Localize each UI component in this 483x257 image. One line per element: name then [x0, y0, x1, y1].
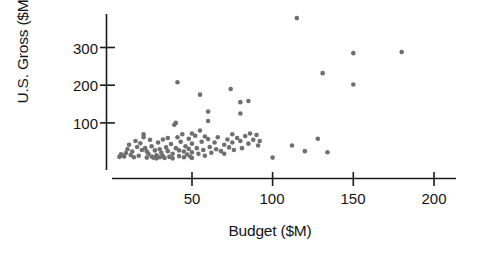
data-point: [198, 92, 203, 97]
data-point: [165, 136, 170, 141]
data-point: [209, 150, 214, 155]
data-point: [206, 137, 211, 142]
data-point-group: [117, 16, 404, 161]
data-point: [228, 87, 233, 92]
data-point: [222, 152, 227, 157]
data-point: [162, 156, 167, 161]
data-point: [207, 145, 212, 150]
data-point: [270, 155, 275, 160]
data-point: [316, 136, 321, 141]
data-point: [169, 142, 174, 147]
data-point: [230, 140, 235, 145]
data-point: [199, 139, 204, 144]
data-point: [132, 155, 137, 160]
data-point: [214, 147, 219, 152]
data-point: [290, 143, 295, 148]
data-point: [238, 111, 243, 116]
data-point: [232, 148, 237, 153]
data-point: [138, 141, 143, 146]
data-point: [149, 144, 154, 149]
data-point: [174, 121, 179, 126]
plot-area: [0, 0, 483, 257]
data-point: [215, 135, 220, 140]
data-point: [190, 156, 195, 161]
data-point: [190, 150, 195, 155]
data-point: [238, 139, 243, 144]
data-point: [399, 50, 404, 55]
data-point: [212, 140, 217, 145]
data-point: [320, 71, 325, 76]
data-point: [222, 142, 227, 147]
data-point: [135, 145, 140, 150]
data-point: [351, 51, 356, 56]
data-point: [177, 148, 182, 153]
data-point: [190, 141, 195, 146]
scatter-plot-figure: U.S. Gross ($M) Budget ($M) 300 200 100 …: [0, 0, 483, 257]
data-point: [193, 133, 198, 138]
data-point: [248, 131, 253, 136]
data-point: [175, 80, 180, 85]
data-point: [240, 146, 245, 151]
data-point: [161, 137, 166, 142]
data-point: [195, 146, 200, 151]
data-point: [351, 82, 356, 87]
data-point: [230, 132, 235, 137]
data-point: [141, 135, 146, 140]
data-point: [257, 139, 262, 144]
data-point: [186, 136, 191, 141]
data-point: [203, 153, 208, 158]
data-point: [177, 154, 182, 159]
data-point: [178, 139, 183, 144]
data-point: [201, 148, 206, 153]
data-point: [256, 143, 261, 148]
data-point: [130, 149, 135, 154]
data-point: [243, 134, 248, 139]
data-point: [136, 153, 141, 158]
data-point: [175, 135, 180, 140]
data-point: [254, 133, 259, 138]
data-point: [206, 109, 211, 114]
data-point: [303, 149, 308, 154]
data-point: [206, 119, 211, 124]
data-point: [238, 100, 243, 105]
data-point: [295, 16, 300, 21]
data-point: [125, 147, 130, 152]
data-point: [198, 128, 203, 133]
data-point: [227, 145, 232, 150]
data-point: [156, 140, 161, 145]
data-point: [127, 142, 132, 147]
data-point: [186, 147, 191, 152]
data-point: [246, 141, 251, 146]
data-point: [153, 148, 158, 153]
data-point: [246, 99, 251, 104]
data-point: [170, 152, 175, 157]
data-point: [251, 138, 256, 143]
data-point: [133, 139, 138, 144]
data-point: [148, 138, 153, 143]
data-point: [170, 156, 175, 161]
data-point: [325, 150, 330, 155]
data-point: [165, 149, 170, 154]
data-point: [225, 137, 230, 142]
data-point: [196, 152, 201, 157]
data-point: [180, 132, 185, 137]
